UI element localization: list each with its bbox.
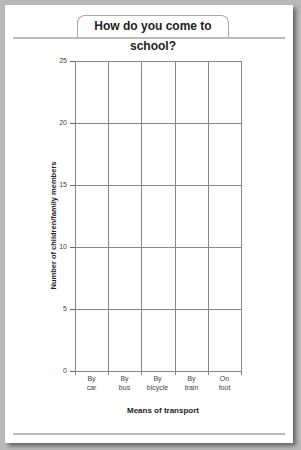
x-category-label: Bybicycle	[141, 374, 174, 392]
gridline-x	[175, 61, 176, 375]
gridline-y-25	[75, 61, 242, 62]
x-category-label: Bytrain	[175, 374, 208, 392]
chart-title: How do you come to school?	[77, 15, 229, 38]
x-category-label: Onfoot	[208, 374, 241, 392]
gridline-y-15	[75, 185, 242, 186]
gridline-y-0	[75, 371, 242, 372]
gridline-y-20	[75, 123, 242, 124]
gridline-x	[75, 61, 76, 375]
x-category-label: Bybus	[108, 374, 141, 392]
y-axis-title: Number of children/family members	[49, 136, 58, 316]
worksheet-page: How do you come to school? Number of chi…	[5, 5, 293, 443]
bottom-divider	[13, 433, 285, 435]
title-divider	[13, 37, 285, 39]
y-tick-label: 25	[47, 57, 67, 64]
y-tick-label: 10	[47, 243, 67, 250]
y-tick-label: 20	[47, 119, 67, 126]
y-tick-label: 5	[47, 305, 67, 312]
y-tick-label: 15	[47, 181, 67, 188]
gridline-y-5	[75, 309, 242, 310]
y-tick-label: 0	[47, 367, 67, 374]
x-category-label: Bycar	[75, 374, 108, 392]
gridline-x	[241, 61, 242, 375]
gridline-y-10	[75, 247, 242, 248]
gridline-x	[108, 61, 109, 375]
x-axis-title: Means of transport	[80, 406, 246, 415]
gridline-x	[141, 61, 142, 375]
gridline-x	[208, 61, 209, 375]
